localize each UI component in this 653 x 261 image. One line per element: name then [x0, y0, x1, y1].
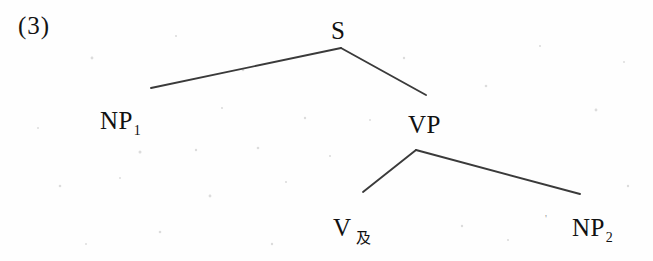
tree-node-v-label: V: [333, 214, 351, 241]
tree-node-np1: NP1: [100, 108, 140, 133]
example-number: (3): [18, 12, 50, 40]
tree-node-v-subscript: 及: [356, 229, 371, 247]
tree-node-np1-label: NP: [100, 107, 133, 134]
tree-node-vp: VP: [408, 112, 441, 137]
figure-canvas: (3) S NP1 VP V及 ' NP2: [0, 0, 653, 261]
tree-branches: [0, 0, 653, 261]
tree-node-vp-label: VP: [408, 111, 441, 138]
branch-vp-np2: [416, 150, 580, 194]
branch-vp-v: [363, 150, 416, 192]
branch-s-np1: [151, 48, 341, 88]
tree-node-s: S: [331, 18, 345, 43]
tree-node-s-label: S: [331, 17, 345, 44]
tree-node-np2-label: NP: [572, 214, 605, 241]
tree-node-np2: NP2: [572, 215, 612, 240]
tree-node-v: V及: [333, 215, 366, 240]
branch-s-vp: [341, 48, 426, 95]
tree-node-np1-subscript: 1: [134, 123, 141, 138]
tree-node-np2-subscript: 2: [606, 230, 613, 245]
scan-artifact-mark: ': [545, 212, 547, 224]
